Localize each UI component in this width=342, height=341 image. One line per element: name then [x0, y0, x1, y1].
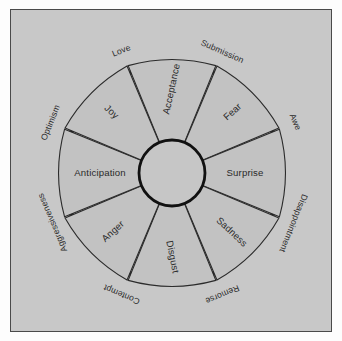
dyad-label: Love: [110, 42, 132, 59]
primary-emotion-label: Surprise: [227, 167, 264, 178]
dyad-label: Awe: [288, 112, 304, 132]
plutchik-wheel-diagram: AcceptanceFearSurpriseSadnessDisgustAnge…: [11, 10, 331, 331]
figure-canvas: AcceptanceFearSurpriseSadnessDisgustAnge…: [0, 0, 342, 341]
figure-frame: AcceptanceFearSurpriseSadnessDisgustAnge…: [10, 9, 332, 332]
dyad-label: Submission: [199, 37, 245, 65]
dyad-label: Remorse: [204, 283, 241, 306]
dyad-label: Optimism: [39, 103, 62, 142]
dyad-label: Contempt: [102, 282, 142, 306]
wheel-hub-circle: [139, 140, 205, 206]
primary-emotion-label: Anticipation: [74, 167, 125, 178]
